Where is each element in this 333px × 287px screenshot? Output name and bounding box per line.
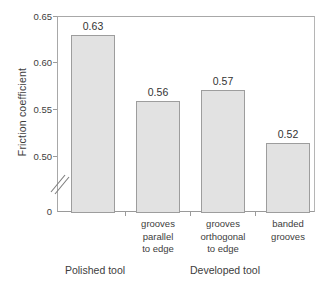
bar-banded-grooves[interactable] [266,143,310,213]
y-tick-label-0.60: 0.60 [12,57,52,68]
category-label-line: banded [258,218,318,231]
x-tick-mark-1 [125,212,126,216]
bar-value-grooves-orthogonal: 0.57 [201,75,245,87]
bar-value-grooves-parallel: 0.56 [136,86,180,98]
bar-polished-tool[interactable] [71,35,115,213]
group-label-developed-tool: Developed tool [165,264,285,276]
y-tick-label-0.65: 0.65 [12,11,52,22]
category-label-line: to edge [191,243,255,256]
category-label-grooves-orthogonal: grooves orthogonal to edge [191,218,255,256]
category-label-grooves-parallel: grooves parallel to edge [128,218,188,256]
category-label-banded-grooves: banded grooves [258,218,318,243]
bar-value-polished-tool: 0.63 [71,20,115,32]
x-tick-mark-2 [190,212,191,216]
category-label-line: grooves [191,218,255,231]
category-label-line: grooves [128,218,188,231]
y-tick-label-0: 0 [12,206,52,217]
y-tick-label-0.50: 0.50 [12,151,52,162]
y-tick-label-0.55: 0.55 [12,104,52,115]
x-tick-mark-3 [255,212,256,216]
category-label-line: to edge [128,243,188,256]
bar-chart: Friction coefficient 0.65 0.60 0.55 0.50… [0,0,333,287]
group-label-polished-tool: Polished tool [40,264,150,276]
bar-grooves-parallel-to-edge[interactable] [136,101,180,213]
category-label-line: orthogonal [191,231,255,244]
axis-break-icon [48,172,70,196]
bar-value-banded-grooves: 0.52 [266,128,310,140]
category-label-line: grooves [258,231,318,244]
category-label-line: parallel [128,231,188,244]
bar-grooves-orthogonal-to-edge[interactable] [201,90,245,213]
